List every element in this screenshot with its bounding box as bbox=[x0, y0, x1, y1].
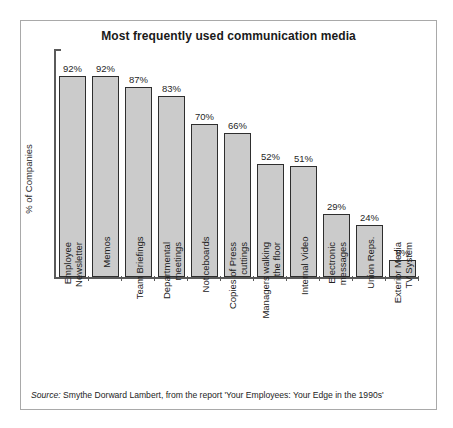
bar-value-label: 87% bbox=[122, 74, 155, 85]
bar-value-label: 92% bbox=[56, 63, 89, 74]
x-axis-category-label: Exterior Media TV System bbox=[386, 283, 419, 387]
bar-value-label: 70% bbox=[188, 111, 221, 122]
bar-value-label: 51% bbox=[287, 153, 320, 164]
chart-figure: Most frequently used communication media… bbox=[20, 20, 437, 410]
page-title: Most frequently used communication media bbox=[21, 29, 436, 43]
bar-value-label: 52% bbox=[254, 151, 287, 162]
bar-value-label: 29% bbox=[320, 201, 353, 212]
source-label: Source: bbox=[31, 390, 61, 400]
category-label-text: Exterior Media TV System bbox=[392, 242, 414, 346]
source-text: Smythe Dorward Lambert, from the report … bbox=[61, 390, 384, 400]
source-note: Source: Smythe Dorward Lambert, from the… bbox=[31, 389, 426, 401]
bar-value-label: 83% bbox=[155, 83, 188, 94]
bar-value-label: 66% bbox=[221, 120, 254, 131]
x-axis-tick bbox=[418, 276, 419, 281]
bar-value-label: 24% bbox=[353, 212, 386, 223]
x-axis-category-labels: Employee NewsletterMemosTeam BriefingsDe… bbox=[56, 283, 419, 387]
plot-area: % of Companies 92%92%87%83%70%66%52%51%2… bbox=[54, 49, 419, 379]
bar-value-label: 92% bbox=[89, 63, 122, 74]
y-axis-title: % of Companies bbox=[23, 119, 34, 239]
